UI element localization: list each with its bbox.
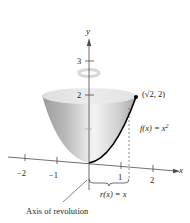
x-tick-label-1: 1 (118, 172, 122, 182)
radius-brace (89, 179, 129, 186)
axis-leader-line (63, 180, 87, 202)
paraboloid-figure: y x 3 2 −2 −1 1 2 (√2, 2) f(x) = x2 r(x)… (0, 0, 190, 223)
x-axis-label: x (178, 165, 183, 175)
x-tick-label-2: 2 (150, 175, 154, 185)
rotation-arrow-icon (77, 70, 99, 77)
y-tick-label-2: 2 (77, 90, 81, 100)
y-tick-label-3: 3 (77, 56, 81, 66)
radius-label: r(x) = x (100, 189, 127, 199)
function-label: f(x) = x2 (140, 123, 169, 134)
x-tick-label-neg2: −2 (17, 168, 26, 178)
point-label: (√2, 2) (142, 89, 165, 99)
point-marker (134, 95, 138, 99)
y-axis-label: y (85, 26, 90, 36)
axis-of-revolution-caption: Axis of revolution (26, 206, 89, 216)
x-tick-label-neg1: −1 (49, 170, 58, 180)
